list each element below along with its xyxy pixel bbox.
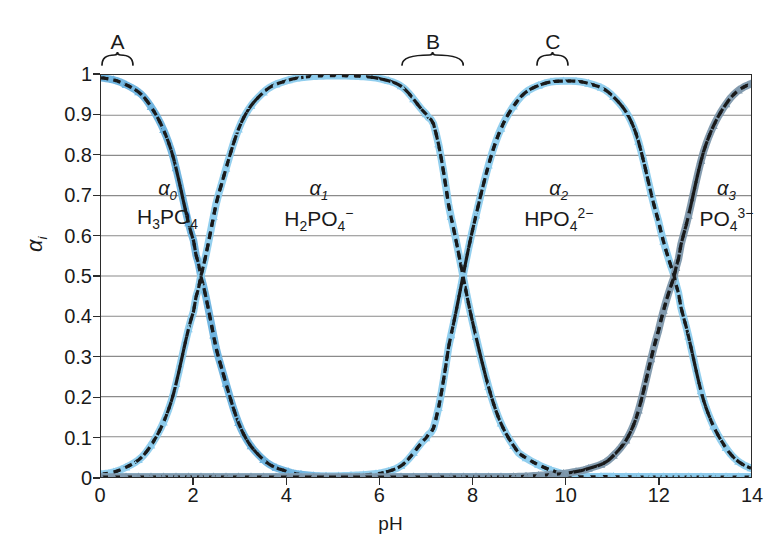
y-tick-label-0.7: 0.7: [64, 184, 92, 207]
y-tick-mark-0.2: [93, 397, 100, 398]
y-tick-mark-0.4: [93, 316, 100, 317]
species-alpha: α3: [699, 177, 753, 204]
brace-label-C: C: [535, 30, 570, 54]
brace-label-A: A: [100, 30, 135, 54]
y-tick-label-0.3: 0.3: [64, 345, 92, 368]
y-tick-mark-0.3: [93, 356, 100, 357]
brace-shape-B: [400, 52, 465, 67]
x-tick-mark-6: [379, 478, 380, 485]
species-alpha: α2: [524, 177, 593, 204]
y-axis-tick-labels: 00.10.20.30.40.50.60.70.80.91: [0, 0, 92, 547]
y-tick-label-0.8: 0.8: [64, 143, 92, 166]
y-tick-mark-1: [93, 73, 100, 74]
x-tick-mark-10: [565, 478, 566, 485]
curve-H2PO4-: [101, 75, 751, 477]
x-tick-label-0: 0: [94, 484, 105, 507]
y-axis-title-alpha: α: [22, 239, 47, 252]
species-formula: PO43−: [699, 205, 753, 235]
y-tick-mark-0: [93, 477, 100, 478]
brace-shape-C: [535, 52, 570, 67]
x-tick-label-4: 4: [281, 484, 292, 507]
species-label-H2PO4−: α1H2PO4−: [284, 177, 353, 234]
y-tick-mark-0.8: [93, 154, 100, 155]
species-label-H3PO4: α0H3PO4: [137, 177, 198, 232]
species-formula: H2PO4−: [284, 205, 353, 235]
brace-shape-A: [100, 52, 135, 67]
brace-annotation-B: B: [400, 30, 465, 67]
species-label-HPO42−: α2HPO42−: [524, 177, 593, 234]
y-axis-title-subscript: i: [35, 236, 50, 239]
y-tick-mark-0.7: [93, 195, 100, 196]
x-tick-label-6: 6: [374, 484, 385, 507]
brace-label-B: B: [400, 30, 465, 54]
x-tick-label-12: 12: [648, 484, 670, 507]
x-tick-mark-4: [286, 478, 287, 485]
speciation-curves: [101, 75, 751, 477]
speciation-diagram-figure: 00.10.20.30.40.50.60.70.80.91 αi 0246810…: [0, 0, 781, 547]
species-formula: HPO42−: [524, 205, 593, 235]
curve-dashed-overlay: [573, 84, 751, 472]
x-tick-label-2: 2: [188, 484, 199, 507]
brace-annotation-C: C: [535, 30, 570, 67]
y-tick-label-0.5: 0.5: [64, 265, 92, 288]
y-tick-mark-0.6: [93, 235, 100, 236]
species-alpha: α1: [284, 177, 353, 204]
y-tick-label-0.2: 0.2: [64, 386, 92, 409]
curve-dashed-overlay: [114, 77, 304, 472]
plot-area: [100, 74, 752, 478]
y-tick-mark-0.1: [93, 437, 100, 438]
curve-dashed-overlay: [101, 78, 289, 472]
x-tick-mark-8: [472, 478, 473, 485]
species-label-PO43−: α3PO43−: [699, 177, 753, 234]
y-tick-mark-0.9: [93, 114, 100, 115]
y-tick-label-0.1: 0.1: [64, 426, 92, 449]
x-tick-label-10: 10: [555, 484, 577, 507]
species-alpha: α0: [137, 177, 198, 204]
x-tick-label-14: 14: [741, 484, 763, 507]
x-tick-label-8: 8: [467, 484, 478, 507]
x-axis-title: pH: [0, 513, 781, 535]
y-axis-title: αi: [22, 236, 50, 252]
y-tick-label-0.4: 0.4: [64, 305, 92, 328]
brace-annotation-A: A: [100, 30, 135, 67]
x-tick-mark-12: [658, 478, 659, 485]
y-tick-mark-0.5: [93, 275, 100, 276]
x-tick-mark-2: [192, 478, 193, 485]
species-formula: H3PO4: [137, 205, 198, 233]
y-tick-label-0.9: 0.9: [64, 103, 92, 126]
y-tick-label-0.6: 0.6: [64, 224, 92, 247]
x-axis-tick-labels: 02468101214: [0, 484, 781, 514]
y-tick-label-1: 1: [81, 63, 92, 86]
